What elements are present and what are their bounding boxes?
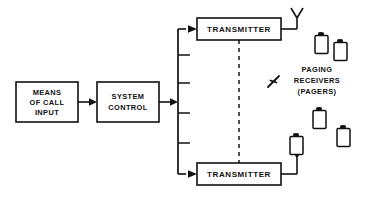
diagram-canvas: MEANS OF CALL INPUT SYSTEM CONTROL bbox=[0, 0, 365, 200]
transmitter-top-block: TRANSMITTER bbox=[197, 18, 281, 40]
means-of-call-input-block: MEANS OF CALL INPUT bbox=[16, 82, 78, 122]
paging-receivers-line-1: PAGING bbox=[301, 65, 332, 74]
pager-icon bbox=[334, 40, 347, 61]
radio-wave-icon bbox=[268, 76, 279, 87]
means-of-call-input-line-1: MEANS bbox=[33, 88, 62, 97]
means-of-call-input-line-2: OF CALL bbox=[30, 98, 65, 107]
pager-icon bbox=[337, 126, 350, 147]
arrowhead-control-to-bus bbox=[170, 98, 178, 106]
antenna-top bbox=[281, 8, 303, 29]
arrow-control-to-bus bbox=[159, 98, 178, 106]
paging-receivers-line-3: (PAGERS) bbox=[298, 87, 337, 96]
antenna-top-element-right bbox=[297, 8, 303, 18]
transmitter-top-label: TRANSMITTER bbox=[207, 25, 271, 34]
means-of-call-input-line-3: INPUT bbox=[35, 108, 59, 117]
arrowhead-bus-to-transmitter-bottom bbox=[188, 170, 197, 178]
transmitter-bottom-block: TRANSMITTER bbox=[197, 163, 281, 185]
pager-icon bbox=[315, 33, 328, 54]
paging-receivers-annotation: PAGING RECEIVERS (PAGERS) bbox=[294, 65, 340, 96]
paging-system-diagram: MEANS OF CALL INPUT SYSTEM CONTROL bbox=[0, 0, 365, 200]
system-control-line-2: CONTROL bbox=[108, 103, 147, 112]
arrow-input-to-control bbox=[78, 98, 97, 106]
distribution-bus bbox=[178, 25, 197, 178]
pager-icon bbox=[313, 108, 326, 129]
transmitter-bottom-label: TRANSMITTER bbox=[207, 170, 271, 179]
antenna-top-element-left bbox=[291, 8, 297, 18]
pager-icon bbox=[290, 134, 303, 155]
system-control-box bbox=[97, 82, 159, 122]
system-control-line-1: SYSTEM bbox=[112, 92, 145, 101]
paging-receivers-line-2: RECEIVERS bbox=[294, 76, 340, 85]
arrowhead-input-to-control bbox=[89, 98, 97, 106]
arrowhead-bus-to-transmitter-top bbox=[188, 25, 197, 33]
system-control-block: SYSTEM CONTROL bbox=[97, 82, 159, 122]
